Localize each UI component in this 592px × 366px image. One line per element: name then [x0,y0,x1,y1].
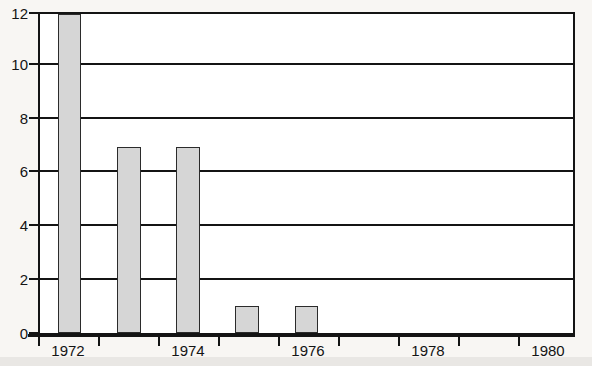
bar-1976 [295,306,319,333]
y-tick-mark-4 [29,224,38,226]
y-tick-label-2: 2 [4,272,28,287]
bar-1975 [235,306,259,333]
y-tick-label-6: 6 [4,164,28,179]
bar-chart: 12 10 8 6 4 2 0 [0,0,592,366]
x-tick-mark-1 [98,335,100,346]
y-tick-mark-6 [29,170,38,172]
y-tick-label-8: 8 [4,111,28,126]
x-tick-mark-5 [338,335,340,346]
x-tick-label-1980: 1980 [519,343,577,358]
x-tick-label-1976: 1976 [279,343,337,358]
y-tick-label-4: 4 [4,218,28,233]
plot-area [38,12,575,335]
x-tick-label-1978: 1978 [399,343,457,358]
x-tick-label-1972: 1972 [39,343,97,358]
x-tick-mark-3 [218,335,220,346]
y-tick-mark-10 [29,63,38,65]
bar-1972 [58,14,82,333]
bar-1974 [176,147,200,333]
y-tick-label-12: 12 [4,6,28,21]
y-tick-mark-12 [29,12,38,14]
x-axis-line [28,334,575,337]
y-tick-label-10: 10 [4,57,28,72]
y-tick-mark-2 [29,278,38,280]
gridline-8 [40,117,573,119]
y-tick-label-0: 0 [4,326,28,341]
x-tick-label-1974: 1974 [159,343,217,358]
gridline-10 [40,63,573,65]
x-tick-mark-7 [458,335,460,346]
y-tick-mark-8 [29,117,38,119]
bar-1973 [117,147,141,333]
